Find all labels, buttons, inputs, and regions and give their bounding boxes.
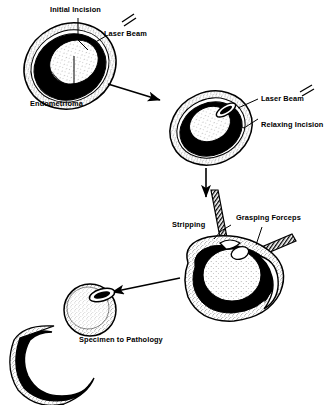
arrow-panel1-to-panel2 [108,84,160,100]
illustration-svg [0,0,335,405]
laser-beam-symbol-1 [122,14,136,26]
label-specimen-to-pathology: Specimen to Pathology [79,336,163,343]
label-grasping-forceps: Grasping Forceps [236,214,301,221]
label-laser-beam-1: Laser Beam [104,30,147,37]
panel-4-remaining-ovary [64,284,116,336]
label-relaxing-incision: Relaxing Incision [261,121,323,128]
figure-canvas: Initial Incision Laser Beam Endometrioma… [0,0,335,405]
label-stripping: Stripping [172,221,205,228]
arrow-panel3-to-panel4 [112,278,180,292]
label-endometrioma: Endometrioma [30,100,83,107]
label-initial-incision: Initial Incision [50,6,101,13]
panel-2-ovary [158,78,264,178]
label-laser-beam-2: Laser Beam [261,95,304,102]
